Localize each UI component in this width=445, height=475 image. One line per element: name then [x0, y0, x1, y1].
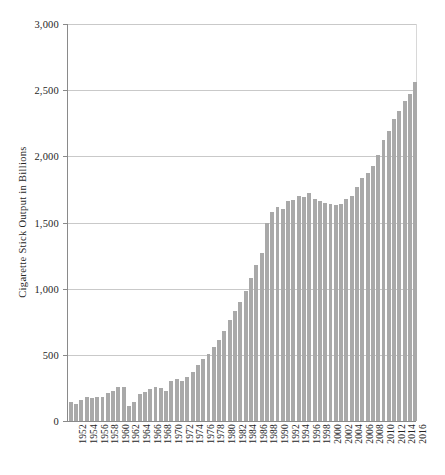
y-tick-label-3000: 3,000	[34, 19, 59, 30]
x-tick-label-1962: 1962	[131, 424, 141, 444]
y-tick-label-2000: 2,000	[34, 151, 59, 162]
bar	[85, 397, 89, 421]
x-tick-label-1974: 1974	[195, 424, 205, 444]
bar	[101, 397, 105, 421]
bar	[376, 155, 380, 421]
bar	[196, 365, 200, 421]
bar	[95, 397, 99, 421]
gridline-0	[68, 421, 416, 422]
bar	[254, 265, 258, 421]
bar	[233, 311, 237, 421]
x-tick-label-1952: 1952	[78, 424, 88, 444]
x-tick-label-2000: 2000	[333, 424, 343, 444]
bar	[212, 347, 216, 421]
x-tick-label-1992: 1992	[291, 424, 301, 444]
bar	[334, 205, 338, 421]
x-tick-label-2012: 2012	[397, 424, 407, 444]
bar	[382, 140, 386, 421]
x-tick-label-1988: 1988	[269, 424, 279, 444]
plot-area	[67, 24, 417, 421]
bar	[180, 381, 184, 421]
x-tick-label-1984: 1984	[248, 424, 258, 444]
bar	[159, 388, 163, 421]
y-tick-mark-0	[63, 421, 68, 422]
bar	[69, 402, 73, 421]
bar	[286, 201, 290, 421]
bar	[371, 166, 375, 421]
bar	[297, 196, 301, 421]
bar	[201, 359, 205, 421]
bar	[302, 197, 306, 421]
x-tick-label-2010: 2010	[386, 424, 396, 444]
bar	[329, 204, 333, 421]
bar	[260, 253, 264, 421]
bar	[323, 203, 327, 421]
bar	[148, 389, 152, 421]
y-tick-label-0: 0	[54, 416, 59, 427]
bar	[392, 119, 396, 421]
bar	[79, 400, 83, 421]
bar	[265, 223, 269, 422]
bar	[350, 196, 354, 421]
y-tick-label-2500: 2,500	[34, 85, 59, 96]
x-tick-label-1966: 1966	[153, 424, 163, 444]
bar	[138, 394, 142, 421]
bar	[291, 200, 295, 421]
x-tick-label-1968: 1968	[163, 424, 173, 444]
x-tick-label-1958: 1958	[110, 424, 120, 444]
bar	[387, 131, 391, 421]
bar	[132, 402, 136, 421]
bar	[403, 101, 407, 421]
bar	[408, 94, 412, 421]
bar	[185, 377, 189, 421]
bar	[169, 381, 173, 421]
x-tick-label-2004: 2004	[354, 424, 364, 444]
x-tick-label-2016: 2016	[418, 424, 428, 444]
bar	[313, 199, 317, 421]
x-tick-label-2008: 2008	[375, 424, 385, 444]
bar	[111, 391, 115, 421]
bar	[355, 187, 359, 421]
bar	[228, 320, 232, 421]
x-tick-label-1964: 1964	[142, 424, 152, 444]
x-tick-label-1986: 1986	[259, 424, 269, 444]
bar	[116, 387, 120, 421]
x-tick-label-1996: 1996	[312, 424, 322, 444]
x-tick-label-1970: 1970	[174, 424, 184, 444]
bar	[238, 302, 242, 421]
bar	[281, 209, 285, 421]
bar	[344, 199, 348, 421]
x-axis-tick-labels: 1952195419561958196019621964196619681970…	[67, 424, 417, 475]
bar	[74, 404, 78, 421]
x-tick-label-1998: 1998	[322, 424, 332, 444]
bar	[154, 387, 158, 421]
bar	[217, 340, 221, 421]
x-tick-label-1982: 1982	[238, 424, 248, 444]
x-tick-label-1954: 1954	[89, 424, 99, 444]
bar	[339, 204, 343, 421]
bar	[413, 82, 417, 421]
bar-series	[68, 24, 416, 421]
y-tick-label-1000: 1,000	[34, 283, 59, 294]
bar	[222, 331, 226, 421]
bar	[143, 392, 147, 421]
cigarette-output-bar-chart: Cigarette Stick Output in Billions 05001…	[0, 0, 445, 475]
bar	[270, 212, 274, 421]
x-tick-label-1990: 1990	[280, 424, 290, 444]
bar	[318, 201, 322, 421]
bar	[122, 387, 126, 421]
x-tick-label-2014: 2014	[407, 424, 417, 444]
bar	[307, 193, 311, 421]
bar	[90, 398, 94, 421]
bar	[127, 406, 131, 421]
x-tick-label-1956: 1956	[100, 424, 110, 444]
x-tick-label-1980: 1980	[227, 424, 237, 444]
bar	[276, 207, 280, 421]
bar	[244, 291, 248, 421]
x-tick-label-1994: 1994	[301, 424, 311, 444]
x-tick-label-2006: 2006	[365, 424, 375, 444]
bar	[175, 379, 179, 421]
bar	[249, 278, 253, 421]
x-tick-label-1976: 1976	[206, 424, 216, 444]
x-tick-label-2002: 2002	[344, 424, 354, 444]
